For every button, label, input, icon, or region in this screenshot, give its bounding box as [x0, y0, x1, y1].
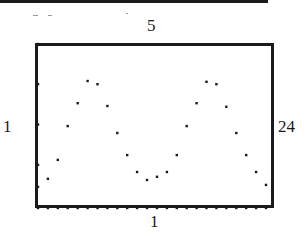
data-point	[96, 83, 98, 85]
x-tick-mark	[166, 207, 168, 209]
x-tick-mark	[57, 207, 59, 209]
data-point	[255, 171, 257, 173]
x-tick-mark	[176, 207, 178, 209]
x-tick-mark	[255, 207, 257, 209]
data-point	[106, 105, 108, 107]
data-point	[146, 179, 148, 181]
x-tick-mark	[225, 207, 227, 209]
data-point	[57, 159, 59, 161]
data-point	[47, 178, 49, 180]
x-tick-mark	[67, 207, 69, 209]
x-tick-mark	[37, 207, 39, 209]
data-point	[116, 132, 118, 134]
x-tick-mark	[245, 207, 247, 209]
data-point	[235, 132, 237, 134]
y-tick-mark	[37, 123, 39, 125]
x-tick-mark	[156, 207, 158, 209]
x-tick-mark	[186, 207, 188, 209]
data-point	[166, 171, 168, 173]
x-tick-mark	[126, 207, 128, 209]
y-tick-mark	[37, 164, 39, 166]
data-point	[77, 102, 79, 104]
data-points	[37, 80, 267, 188]
x-tick-mark	[146, 207, 148, 209]
x-tick-mark	[116, 207, 118, 209]
x-tick-mark	[77, 207, 79, 209]
x-axis-ticks	[37, 207, 267, 209]
data-point	[136, 171, 138, 173]
data-point	[245, 154, 247, 156]
data-point	[225, 106, 227, 108]
x-tick-mark	[205, 207, 207, 209]
data-point	[176, 154, 178, 156]
x-tick-mark	[96, 207, 98, 209]
x-tick-mark	[106, 207, 108, 209]
x-tick-mark	[195, 207, 197, 209]
data-point	[265, 184, 267, 186]
data-point	[37, 186, 39, 188]
x-tick-mark	[215, 207, 217, 209]
data-point	[86, 80, 88, 82]
y-axis-ticks	[37, 43, 39, 166]
data-point	[67, 125, 69, 127]
x-tick-mark	[47, 207, 49, 209]
data-point	[195, 102, 197, 104]
x-tick-mark	[136, 207, 138, 209]
x-tick-mark	[265, 207, 267, 209]
y-tick-mark	[37, 83, 39, 85]
data-point	[126, 154, 128, 156]
x-tick-mark	[86, 207, 88, 209]
data-point	[156, 176, 158, 178]
data-point	[186, 125, 188, 127]
data-point	[215, 83, 217, 85]
y-tick-mark	[37, 43, 39, 45]
data-point	[205, 81, 207, 83]
x-tick-mark	[235, 207, 237, 209]
scatter-plot	[0, 0, 307, 236]
